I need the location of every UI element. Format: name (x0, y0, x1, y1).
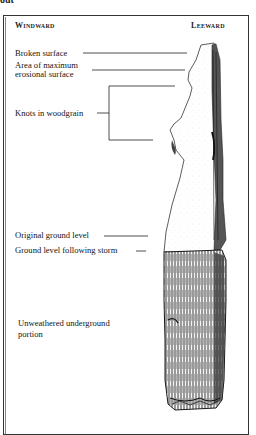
post-illustration (0, 0, 256, 424)
